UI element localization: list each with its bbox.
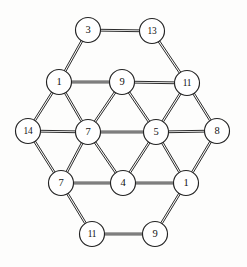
edge-stroke: [66, 142, 82, 172]
graph-edge: [134, 81, 175, 83]
node-label: 9: [152, 228, 157, 239]
edge-stroke: [129, 142, 149, 173]
edge-stroke: [134, 81, 175, 82]
graph-edge: [191, 141, 211, 173]
graph-node[interactable]: 13: [140, 19, 165, 44]
graph-node[interactable]: 11: [80, 222, 105, 247]
graph-node[interactable]: 7: [49, 171, 74, 196]
edge-stroke: [161, 143, 179, 173]
edge-stroke: [35, 141, 55, 173]
node-label: 3: [85, 24, 90, 35]
graph-node[interactable]: 9: [143, 222, 168, 247]
edge-stroke: [162, 194, 181, 224]
graph-edge: [94, 141, 117, 173]
edge-stroke: [163, 142, 181, 172]
edge-stroke: [193, 142, 212, 173]
graph-node[interactable]: 1: [174, 171, 199, 196]
graph-node[interactable]: 1: [47, 70, 72, 95]
edge-stroke: [134, 83, 175, 84]
node-label: 8: [214, 125, 219, 136]
graph-edge: [162, 93, 182, 123]
graph-edge: [71, 81, 110, 83]
graph-edge: [128, 91, 150, 122]
graph-node[interactable]: 11: [175, 71, 200, 96]
edge-stroke: [94, 142, 115, 173]
graph-edge: [193, 93, 212, 122]
edge-stroke: [168, 130, 205, 131]
graph-edge: [168, 130, 205, 132]
edge-stroke: [130, 143, 150, 174]
graph-edge: [158, 40, 181, 73]
graph-canvas: 313191114758741119: [0, 0, 247, 267]
edge-stroke: [67, 143, 83, 173]
graph-node[interactable]: 8: [205, 119, 230, 144]
node-label: 9: [119, 76, 124, 87]
edge-stroke: [34, 142, 54, 174]
graph-edge: [160, 193, 180, 224]
graph-edge: [66, 193, 86, 224]
graph-edge: [135, 182, 174, 184]
edge-stroke: [193, 94, 210, 122]
graph-edge: [100, 131, 144, 133]
graph-edge: [64, 40, 83, 72]
graph-figure: 313191114758741119: [0, 0, 247, 267]
node-label: 7: [58, 177, 63, 188]
edge-stroke: [96, 141, 117, 172]
node-label: 1: [183, 177, 188, 188]
graph-edge: [34, 92, 54, 122]
edge-stroke: [129, 91, 150, 121]
edge-stroke: [163, 94, 181, 123]
graph-edge: [104, 233, 143, 235]
graph-node[interactable]: 5: [144, 120, 169, 145]
edge-stroke: [66, 92, 83, 121]
edge-stroke: [95, 92, 116, 122]
edge-stroke: [35, 93, 53, 122]
edge-stroke: [40, 132, 76, 133]
edge-stroke: [160, 193, 179, 223]
edge-stroke: [191, 141, 210, 172]
edges-layer: [34, 29, 212, 235]
graph-node[interactable]: 14: [16, 119, 41, 144]
graph-edge: [64, 92, 83, 122]
graph-node[interactable]: 4: [111, 171, 136, 196]
graph-edge: [66, 142, 83, 173]
graph-edge: [161, 142, 180, 173]
node-label: 1: [56, 76, 61, 87]
node-label: 11: [183, 78, 192, 88]
edge-stroke: [158, 41, 180, 73]
node-label: 13: [148, 26, 157, 36]
node-label: 11: [88, 229, 97, 239]
graph-edge: [34, 141, 56, 174]
node-label: 7: [85, 126, 90, 137]
graph-edge: [129, 142, 150, 174]
graph-node[interactable]: 3: [76, 18, 101, 43]
graph-edge: [73, 182, 111, 184]
node-label: 4: [120, 177, 126, 188]
edge-stroke: [159, 40, 181, 72]
graph-edge: [40, 130, 76, 132]
edge-stroke: [168, 132, 205, 133]
edge-stroke: [100, 31, 140, 32]
edge-stroke: [100, 29, 140, 30]
edge-stroke: [40, 130, 76, 131]
edge-stroke: [66, 194, 85, 224]
edge-stroke: [64, 93, 81, 122]
graph-edge: [94, 91, 116, 122]
edge-stroke: [66, 41, 83, 72]
edge-stroke: [94, 91, 115, 121]
edge-stroke: [162, 93, 180, 122]
graph-edge: [100, 29, 140, 31]
edge-stroke: [194, 93, 211, 121]
edge-stroke: [68, 193, 87, 223]
graph-node[interactable]: 7: [76, 120, 101, 145]
node-label: 14: [24, 126, 33, 136]
edge-stroke: [34, 92, 52, 121]
edge-stroke: [64, 40, 81, 71]
edge-stroke: [128, 92, 149, 122]
graph-node[interactable]: 9: [110, 70, 135, 95]
node-label: 5: [153, 126, 158, 137]
